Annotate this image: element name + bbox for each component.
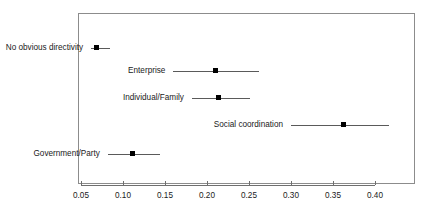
x-axis-tick — [81, 181, 82, 185]
x-axis-tick-label: 0.20 — [199, 191, 215, 200]
x-axis-tick-label: 0.15 — [157, 191, 173, 200]
data-row: No obvious directivity — [0, 41, 426, 55]
data-row: Social coordination — [0, 118, 426, 132]
category-label: Enterprise — [128, 64, 165, 78]
category-label: No obvious directivity — [6, 41, 83, 55]
x-axis-tick-label: 0.40 — [367, 191, 383, 200]
estimate-point — [213, 68, 218, 73]
estimate-point — [216, 95, 221, 100]
x-axis-tick — [249, 181, 250, 185]
x-axis-line — [81, 185, 375, 186]
x-axis-tick-label: 0.25 — [241, 191, 257, 200]
category-label: Social coordination — [214, 118, 283, 132]
estimate-point — [341, 122, 346, 127]
data-row: Enterprise — [0, 64, 426, 78]
x-axis-tick-label: 0.10 — [115, 191, 131, 200]
x-axis-tick-label: 0.30 — [283, 191, 299, 200]
category-label: Individual/Family — [123, 91, 184, 105]
data-row: Individual/Family — [0, 91, 426, 105]
dotplot-chart: No obvious directivityEnterpriseIndividu… — [0, 0, 426, 218]
x-axis-tick — [333, 181, 334, 185]
x-axis-tick — [165, 181, 166, 185]
estimate-point — [130, 151, 135, 156]
x-axis-tick — [375, 181, 376, 185]
x-axis-tick-label: 0.05 — [73, 191, 89, 200]
category-label: Government/Party — [33, 147, 99, 161]
estimate-point — [94, 45, 99, 50]
x-axis-tick — [291, 181, 292, 185]
data-row: Government/Party — [0, 147, 426, 161]
x-axis-tick — [207, 181, 208, 185]
x-axis-tick — [123, 181, 124, 185]
x-axis-tick-label: 0.35 — [325, 191, 341, 200]
confidence-interval-line — [291, 125, 389, 126]
